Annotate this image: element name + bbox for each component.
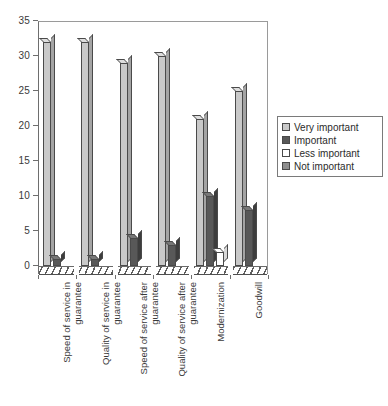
chart-legend: Very important Important Less important … bbox=[277, 116, 383, 177]
x-axis-label: Quality of service in guarantee bbox=[101, 282, 122, 400]
y-axis-tick: 30 bbox=[0, 50, 38, 62]
bar-front-face bbox=[43, 42, 51, 266]
bar-1-0 bbox=[53, 259, 61, 266]
bar-front-face bbox=[158, 56, 166, 266]
y-axis-tick-label: 15 bbox=[18, 155, 30, 167]
legend-swatch-important bbox=[282, 136, 290, 144]
legend-label: Important bbox=[294, 135, 336, 146]
bar-front-face bbox=[91, 259, 99, 266]
y-axis-tick: 5 bbox=[0, 225, 38, 237]
bar-front-face bbox=[235, 91, 243, 266]
legend-label: Less important bbox=[294, 148, 360, 159]
y-axis-tick-label: 20 bbox=[18, 120, 30, 132]
x-axis-tick bbox=[76, 275, 77, 279]
legend-label: Very important bbox=[294, 122, 358, 133]
bar-0-2 bbox=[120, 63, 128, 266]
y-axis-tick-label: 25 bbox=[18, 85, 30, 97]
legend-item: Important bbox=[282, 134, 378, 146]
x-axis-label: Speed of service in guarantee bbox=[62, 282, 83, 400]
x-axis-tick bbox=[191, 275, 192, 279]
y-axis-tick-label: 30 bbox=[18, 50, 30, 62]
y-axis-tick-label: 35 bbox=[18, 15, 30, 27]
bar-1-5 bbox=[245, 210, 253, 266]
bar-front-face bbox=[53, 259, 61, 266]
bar-side-face bbox=[51, 34, 55, 262]
bar-2-4 bbox=[216, 252, 224, 266]
x-axis-tick bbox=[38, 275, 39, 279]
bar-front-face bbox=[216, 252, 224, 266]
legend-item: Not important bbox=[282, 160, 378, 172]
x-axis-label: Speed of service after guarantee bbox=[139, 282, 160, 400]
legend-swatch-less-important bbox=[282, 149, 290, 157]
x-axis-label: Modernization bbox=[216, 282, 227, 400]
legend-item: Very important bbox=[282, 121, 378, 133]
y-axis-tick: 35 bbox=[0, 15, 38, 27]
legend-item: Less important bbox=[282, 147, 378, 159]
y-axis-tick: 25 bbox=[0, 85, 38, 97]
bar-1-2 bbox=[130, 238, 138, 266]
bar-0-3 bbox=[158, 56, 166, 266]
floor-gap bbox=[228, 266, 233, 275]
legend-label: Not important bbox=[294, 161, 354, 172]
bar-front-face bbox=[120, 63, 128, 266]
plot-area bbox=[38, 21, 268, 274]
bar-1-4 bbox=[206, 196, 214, 266]
x-axis-labels: Speed of service in guaranteeQuality of … bbox=[0, 282, 388, 406]
floor-gap bbox=[189, 266, 194, 275]
y-axis-tick-label: 10 bbox=[18, 190, 30, 202]
bar-side-face bbox=[138, 230, 142, 262]
bar-front-face bbox=[168, 245, 176, 266]
bar-0-0 bbox=[43, 42, 51, 266]
x-axis-tick bbox=[153, 275, 154, 279]
y-axis: 05101520253035 bbox=[0, 0, 38, 300]
y-axis-tick-label: 5 bbox=[24, 225, 30, 237]
legend-swatch-very-important bbox=[282, 123, 290, 131]
floor-gap bbox=[151, 266, 156, 275]
bar-side-face bbox=[128, 55, 132, 262]
bar-0-1 bbox=[81, 42, 89, 266]
bar-front-face bbox=[206, 196, 214, 266]
x-axis-tick bbox=[115, 275, 116, 279]
y-axis-tick: 0 bbox=[0, 260, 38, 272]
x-axis-tick bbox=[268, 275, 269, 279]
y-axis-tick: 15 bbox=[0, 155, 38, 167]
bar-front-face bbox=[130, 238, 138, 266]
bar-1-3 bbox=[168, 245, 176, 266]
legend-swatch-not-important bbox=[282, 162, 290, 170]
bar-side-face bbox=[89, 34, 93, 262]
floor-gap bbox=[74, 266, 79, 275]
floor-gap bbox=[113, 266, 118, 275]
bar-front-face bbox=[81, 42, 89, 266]
bar-front-face bbox=[245, 210, 253, 266]
bar-1-1 bbox=[91, 259, 99, 266]
x-axis-label: Goodwill bbox=[254, 282, 265, 400]
y-axis-tick: 10 bbox=[0, 190, 38, 202]
bar-side-face bbox=[166, 48, 170, 262]
bar-side-face bbox=[176, 237, 180, 262]
bar-0-5 bbox=[235, 91, 243, 266]
y-axis-tick-label: 0 bbox=[24, 260, 30, 272]
y-axis-tick: 20 bbox=[0, 120, 38, 132]
bar-side-face bbox=[253, 202, 257, 262]
x-axis-tick bbox=[230, 275, 231, 279]
x-axis-label: Quality of service after guarantee bbox=[177, 282, 198, 400]
bar-chart: 05101520253035 Speed of service in guara… bbox=[0, 0, 388, 406]
